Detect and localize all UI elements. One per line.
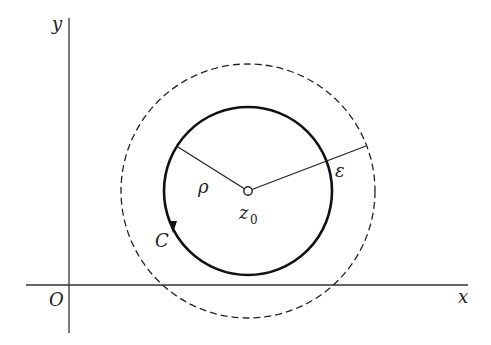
center-point	[244, 187, 252, 195]
center-subscript: 0	[250, 213, 258, 227]
direction-arrow-icon	[169, 221, 177, 233]
diagram-canvas: y x O ρ ε C z 0	[0, 0, 491, 345]
contour-diagram: y x O ρ ε C z 0	[0, 0, 491, 345]
contour-c-label: C	[155, 230, 169, 251]
rho-label: ρ	[197, 176, 209, 197]
center-z-label: z	[238, 202, 249, 223]
y-axis-label: y	[51, 13, 63, 34]
x-axis-label: x	[458, 286, 468, 307]
epsilon-label: ε	[335, 160, 345, 181]
radius-epsilon-line	[248, 146, 366, 191]
radius-rho-line	[178, 147, 248, 191]
origin-label: O	[49, 289, 64, 310]
